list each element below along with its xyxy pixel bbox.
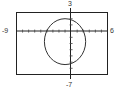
window-frame (17, 13, 108, 75)
ymin-label: -7 (66, 81, 72, 88)
xmax-label: 6 (110, 27, 114, 34)
xmin-label: -9 (2, 27, 8, 34)
plot-svg (0, 0, 116, 90)
ellipse-curve (44, 19, 85, 65)
ymax-label: 3 (68, 0, 72, 7)
